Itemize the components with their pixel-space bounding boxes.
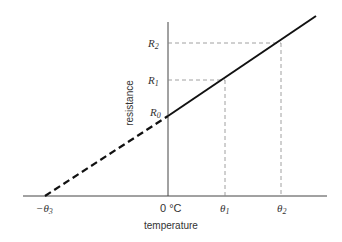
zero-c-label: 0 °C (160, 202, 182, 214)
x-axis-label: temperature (144, 220, 198, 231)
theta1-label: θ1 (220, 202, 229, 216)
y-axis-label: resistance (124, 80, 135, 126)
resistance-temperature-diagram: R2 R1 R0 resistance −θ3 0 °C θ1 θ2 tempe… (0, 0, 342, 242)
extrapolation-line (45, 116, 168, 196)
resistance-line (168, 16, 316, 116)
r0-label: R0 (149, 106, 161, 120)
neg-theta3-label: −θ3 (36, 202, 53, 216)
guide-lines (168, 43, 281, 196)
r1-label: R1 (147, 74, 159, 88)
theta2-label: θ2 (277, 202, 286, 216)
r2-label: R2 (147, 37, 159, 51)
